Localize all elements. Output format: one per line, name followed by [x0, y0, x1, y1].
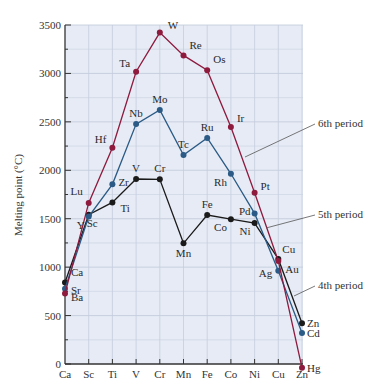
element-label: Ag [259, 267, 273, 279]
element-label: Hf [95, 133, 107, 145]
element-label: Cr [154, 162, 165, 174]
x-tick-label: Cr [154, 368, 165, 380]
data-point [252, 190, 258, 196]
data-point [204, 212, 210, 218]
data-point [157, 176, 163, 182]
data-point [62, 291, 68, 297]
x-tick-label: Co [224, 368, 237, 380]
element-label: Cd [307, 327, 320, 339]
element-label: Y [77, 219, 85, 231]
data-point [275, 258, 281, 264]
x-tick-label: Fe [202, 368, 213, 380]
data-point [133, 121, 139, 127]
y-tick-label: 500 [45, 310, 62, 322]
x-tick-label: Sc [83, 368, 94, 380]
period-label: 5th period [318, 208, 363, 220]
period-label: 4th period [318, 279, 363, 291]
element-label: Mo [152, 93, 168, 105]
x-tick-label: V [132, 368, 140, 380]
data-point [299, 330, 305, 336]
element-label: W [168, 19, 179, 31]
melting-point-chart: 0500100015002000250030003500 CaScTiVCrMn… [0, 0, 387, 392]
data-point [86, 200, 92, 206]
data-point [109, 199, 115, 205]
y-tick-label: 3500 [39, 19, 62, 31]
element-label: Au [285, 263, 299, 275]
data-point [181, 240, 187, 246]
data-point [157, 30, 163, 36]
element-label: Rh [214, 176, 227, 188]
x-tick-label: Ca [59, 368, 71, 380]
y-tick-label: 1500 [39, 213, 62, 225]
data-point [228, 171, 234, 177]
element-label: Tc [178, 138, 189, 150]
data-point [204, 135, 210, 141]
data-point [228, 216, 234, 222]
element-label: Ir [237, 112, 245, 124]
data-point [252, 220, 258, 226]
data-point [133, 69, 139, 75]
x-tick-label: Cu [272, 368, 285, 380]
data-point [204, 67, 210, 73]
element-label: Ni [240, 225, 251, 237]
data-point [299, 365, 305, 371]
data-point [181, 52, 187, 58]
data-point [157, 107, 163, 113]
element-label: Co [214, 221, 227, 233]
element-label: Ba [71, 291, 83, 303]
element-label: Re [190, 39, 202, 51]
x-tick-label: Ni [249, 368, 260, 380]
element-label: Ru [201, 121, 214, 133]
element-label: Ta [119, 57, 130, 69]
element-label: Nb [129, 107, 143, 119]
element-label: Os [213, 53, 225, 65]
element-label: Lu [70, 185, 83, 197]
data-point [299, 320, 305, 326]
element-label: Cu [282, 243, 295, 255]
element-label: Fe [202, 198, 213, 210]
element-label: Pt [261, 180, 270, 192]
y-tick-label: 2500 [39, 116, 62, 128]
data-point [181, 152, 187, 158]
data-point [252, 210, 258, 216]
y-tick-label: 1000 [39, 261, 62, 273]
element-label: Ti [120, 202, 129, 214]
element-label: Zr [118, 176, 129, 188]
data-point [109, 145, 115, 151]
data-point [109, 181, 115, 187]
element-label: V [132, 162, 140, 174]
y-tick-label: 2000 [39, 164, 62, 176]
element-label: Hg [307, 362, 321, 374]
x-tick-label: Mn [176, 368, 192, 380]
element-label: Ca [71, 266, 83, 278]
y-tick-label: 3000 [39, 67, 62, 79]
data-point [133, 176, 139, 182]
element-label: Pd [239, 205, 251, 217]
y-axis-title: Melting point (°C) [12, 154, 25, 236]
x-tick-label: Ti [108, 368, 117, 380]
element-label: Sc [87, 217, 98, 229]
period-label: 6th period [318, 117, 363, 129]
data-point [228, 124, 234, 130]
element-label: Mn [176, 247, 192, 259]
